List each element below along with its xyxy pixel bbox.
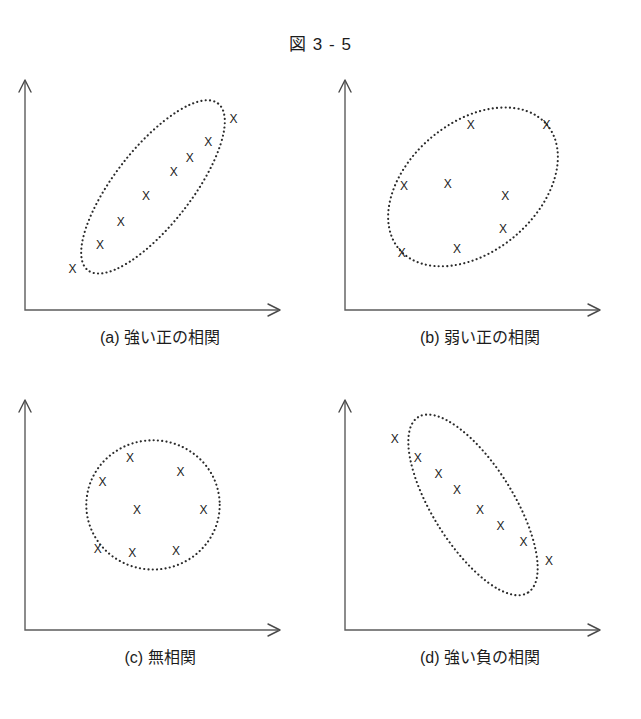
axes-b <box>339 80 600 316</box>
plot-svg-a: XXXXXXXX <box>0 68 320 326</box>
data-point-marker: X <box>499 222 507 236</box>
data-points-a: XXXXXXXX <box>68 112 237 275</box>
panel-grid: XXXXXXXX (a) 強い正の相関 XXXXXXXX (b) 弱い正の相関 <box>0 68 641 708</box>
data-point-marker: X <box>94 542 102 556</box>
panel-caption-d: (d) 強い負の相関 <box>320 644 640 668</box>
envelope-ellipse-d <box>384 396 562 614</box>
data-point-marker: X <box>520 535 528 549</box>
data-point-marker: X <box>497 519 505 533</box>
data-point-marker: X <box>467 118 475 132</box>
panel-caption-b: (b) 弱い正の相関 <box>320 324 640 348</box>
data-point-marker: X <box>453 242 461 256</box>
data-point-marker: X <box>128 546 136 560</box>
data-point-marker: X <box>501 189 509 203</box>
axis-lines-c <box>25 402 278 630</box>
panel-b: XXXXXXXX (b) 弱い正の相関 <box>320 68 640 388</box>
data-point-marker: X <box>204 135 212 149</box>
panel-d: XXXXXXXX (d) 強い負の相関 <box>320 388 640 708</box>
data-point-marker: X <box>186 151 194 165</box>
panel-caption-a: (a) 強い正の相関 <box>0 324 320 348</box>
data-points-c: XXXXXXXX <box>94 451 208 560</box>
data-point-marker: X <box>96 238 104 252</box>
axis-lines-a <box>25 82 278 310</box>
data-point-marker: X <box>543 118 551 132</box>
scatter-plot-a: XXXXXXXX <box>0 68 320 326</box>
envelope-ellipse-a <box>58 80 249 294</box>
data-point-marker: X <box>126 451 134 465</box>
data-point-marker: X <box>117 215 125 229</box>
axis-lines-b <box>345 82 598 310</box>
data-point-marker: X <box>142 189 150 203</box>
envelope-ellipse-b <box>357 75 588 298</box>
axes-d <box>339 400 600 636</box>
figure-title: 図 3 - 5 <box>0 30 641 55</box>
data-point-marker: X <box>414 451 422 465</box>
data-point-marker: X <box>391 432 399 446</box>
data-point-marker: X <box>177 465 185 479</box>
data-point-marker: X <box>476 503 484 517</box>
data-point-marker: X <box>172 544 180 558</box>
data-point-marker: X <box>68 262 76 276</box>
data-point-marker: X <box>98 475 106 489</box>
data-points-d: XXXXXXXX <box>391 432 553 567</box>
data-points-b: XXXXXXXX <box>398 118 551 259</box>
data-point-marker: X <box>400 179 408 193</box>
data-point-marker: X <box>229 112 237 126</box>
scatter-plot-d: XXXXXXXX <box>320 388 640 646</box>
data-point-marker: X <box>434 467 442 481</box>
data-point-marker: X <box>453 483 461 497</box>
data-point-marker: X <box>200 503 208 517</box>
plot-svg-c: XXXXXXXX <box>0 388 320 646</box>
data-point-marker: X <box>444 177 452 191</box>
panel-a: XXXXXXXX (a) 強い正の相関 <box>0 68 320 388</box>
panel-caption-c: (c) 無相関 <box>0 644 320 668</box>
scatter-plot-c: XXXXXXXX <box>0 388 320 646</box>
data-point-marker: X <box>170 165 178 179</box>
axis-lines-d <box>345 402 598 630</box>
panel-c: XXXXXXXX (c) 無相関 <box>0 388 320 708</box>
scatter-plot-b: XXXXXXXX <box>320 68 640 326</box>
data-point-marker: X <box>398 246 406 260</box>
data-point-marker: X <box>545 554 553 568</box>
axes-c <box>19 400 280 636</box>
figure-root: 図 3 - 5 XXXXXXXX (a) 強い正の相関 <box>0 0 641 719</box>
plot-svg-b: XXXXXXXX <box>320 68 640 326</box>
data-point-marker: X <box>133 503 141 517</box>
plot-svg-d: XXXXXXXX <box>320 388 640 646</box>
